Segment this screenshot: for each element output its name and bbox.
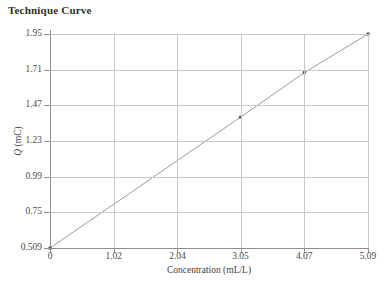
y-axis-tick <box>44 212 50 213</box>
y-axis-tick-label: 1.23 <box>25 136 42 146</box>
y-axis-units: (mC) <box>13 126 23 148</box>
gridline-horizontal <box>50 212 368 213</box>
x-axis-tick-label: 2.04 <box>169 252 186 262</box>
y-axis-tick-label: 0.75 <box>25 207 42 217</box>
x-axis-tick-label: 1.02 <box>105 252 122 262</box>
gridline-horizontal <box>50 70 368 71</box>
x-axis-line <box>50 248 369 249</box>
gridline-vertical <box>177 34 178 248</box>
gridline-vertical <box>368 34 369 248</box>
y-axis-tick-label: 0.509 <box>21 243 42 253</box>
x-axis-tick-label: 4.07 <box>296 252 313 262</box>
x-axis-tick-label: 5.09 <box>360 252 377 262</box>
x-axis-tick-label: 0 <box>48 252 53 262</box>
chart-figure: Technique Curve 0.5090.750.991.231.471.7… <box>0 0 388 284</box>
y-axis-tick-label: 1.47 <box>25 100 42 110</box>
x-axis-title: Concentration (mL/L) <box>167 265 251 275</box>
y-axis-tick <box>44 70 50 71</box>
y-axis-tick-label: 0.99 <box>25 172 42 182</box>
gridline-vertical <box>114 34 115 248</box>
gridline-vertical <box>304 34 305 248</box>
y-axis-tick-label: 1.95 <box>25 29 42 39</box>
x-axis-tick-label: 3.05 <box>232 252 249 262</box>
y-axis-tick <box>44 34 50 35</box>
chart-title: Technique Curve <box>8 4 92 16</box>
y-axis-tick <box>44 177 50 178</box>
y-axis-tick-label: 1.71 <box>25 65 42 75</box>
y-axis-symbol: Q <box>13 149 23 156</box>
y-axis-title: Q (mC) <box>13 126 23 155</box>
y-axis-tick <box>44 105 50 106</box>
plot-area <box>50 34 368 248</box>
gridline-horizontal <box>50 177 368 178</box>
gridline-vertical <box>241 34 242 248</box>
gridline-horizontal <box>50 34 368 35</box>
y-axis-tick <box>44 141 50 142</box>
gridline-horizontal <box>50 141 368 142</box>
gridline-horizontal <box>50 105 368 106</box>
